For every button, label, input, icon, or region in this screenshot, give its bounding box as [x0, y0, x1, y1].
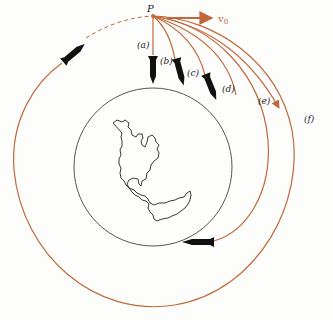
rocket-b-icon — [148, 56, 158, 84]
orbit-dashed-segment — [86, 16, 153, 38]
label-c: (c) — [187, 68, 200, 78]
point-label: P — [146, 3, 154, 14]
label-e: (e) — [258, 96, 271, 106]
continent-outline — [113, 120, 191, 221]
rocket-orbit-icon — [60, 40, 88, 66]
diagram-canvas: P v0 (a) (b) (c) (d) (e) (f) — [0, 0, 333, 320]
label-b: (b) — [160, 56, 173, 66]
label-f: (f) — [304, 114, 315, 124]
rocket-d-icon — [201, 72, 221, 102]
velocity-label: v0 — [217, 13, 228, 26]
rocket-c-icon — [172, 57, 189, 87]
launch-point — [151, 14, 155, 18]
trajectory-e — [153, 16, 268, 241]
newton-cannon-diagram: P v0 (a) (b) (c) (d) (e) (f) — [0, 0, 333, 320]
label-d: (d) — [222, 84, 235, 94]
label-a: (a) — [137, 40, 150, 50]
earth-circle — [74, 88, 232, 246]
